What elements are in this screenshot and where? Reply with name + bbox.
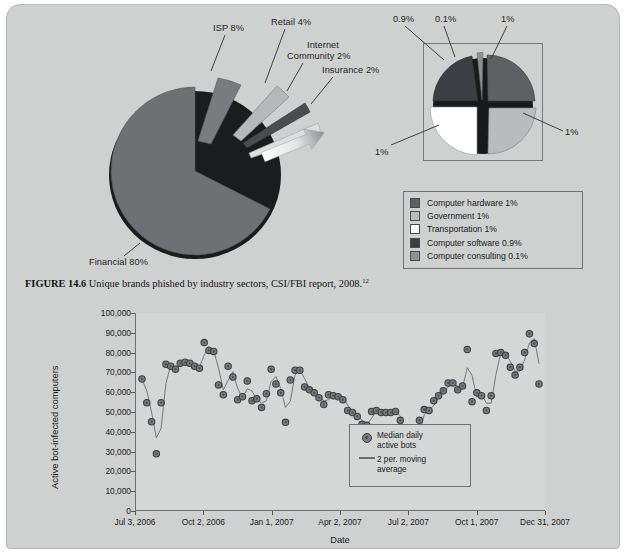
inset-label-hardware: 1% <box>501 14 514 24</box>
x-tick-mark <box>272 511 273 515</box>
y-tick-label: 80,000 <box>27 348 137 358</box>
y-axis-title: Active bot-infected computers <box>49 366 60 490</box>
data-point <box>148 419 154 425</box>
inset-pie-box <box>423 43 543 161</box>
data-point <box>263 391 269 397</box>
y-tick-label: 40,000 <box>27 427 137 437</box>
y-tick-label: 90,000 <box>27 328 137 338</box>
data-point <box>258 404 264 410</box>
legend-label-line1: Median daily <box>377 431 423 440</box>
data-point <box>254 396 260 402</box>
y-tick-label: 0 <box>27 506 137 516</box>
x-tick-label: Dec 31, 2007 <box>520 517 570 527</box>
legend-swatch-icon <box>410 224 420 234</box>
x-tick-label: Oct 1, 2007 <box>455 517 498 527</box>
data-point <box>220 392 226 398</box>
data-point <box>211 348 217 354</box>
data-point <box>239 394 245 400</box>
scatter-legend-item: 2 per. moving average <box>357 455 463 474</box>
pie-legend-label: Government 1% <box>427 211 489 221</box>
data-point <box>478 393 484 399</box>
data-point <box>392 408 398 414</box>
figure-caption-label: FIGURE 14.6 <box>25 278 86 289</box>
pie-figure: ISP 8% Retail 4% Internet Community 2% I… <box>7 5 621 295</box>
inset-pie-svg <box>424 44 542 160</box>
legend-marker <box>357 431 377 443</box>
data-point <box>282 419 288 425</box>
inset-slice-transportation <box>430 107 477 155</box>
x-tick-label: Oct 2, 2006 <box>182 517 225 527</box>
y-tick-label: 100,000 <box>27 308 137 318</box>
y-tick-mark <box>131 432 135 433</box>
pie-label-insurance: Insurance 2% <box>322 65 379 75</box>
data-point <box>507 364 513 370</box>
y-tick-mark <box>131 471 135 472</box>
y-tick-mark <box>131 491 135 492</box>
x-tick-mark <box>408 511 409 515</box>
y-tick-mark <box>131 333 135 334</box>
legend-swatch-icon <box>410 238 420 248</box>
y-tick-mark <box>131 353 135 354</box>
main-pie-svg <box>107 43 347 268</box>
data-point <box>244 378 250 384</box>
pie-label-internet-community-2: Community 2% <box>287 51 351 61</box>
data-point <box>273 381 279 387</box>
pie-label-retail: Retail 4% <box>271 17 311 27</box>
y-tick-mark <box>131 313 135 314</box>
pie-label-financial: Financial 80% <box>89 257 148 267</box>
inset-label-government: 1% <box>565 127 578 137</box>
data-point <box>268 366 274 372</box>
x-tick-label: Jan 1, 2007 <box>250 517 294 527</box>
data-point <box>201 339 207 345</box>
x-tick-label: Apr 2, 2007 <box>318 517 361 527</box>
y-tick-label: 70,000 <box>27 367 137 377</box>
data-point <box>225 363 231 369</box>
data-point <box>512 372 518 378</box>
pie-legend: Computer hardware 1% Government 1% Trans… <box>403 191 583 269</box>
data-point <box>321 401 327 407</box>
data-point <box>139 376 145 382</box>
y-tick-mark <box>131 392 135 393</box>
pie-legend-item: Computer hardware 1% <box>410 196 576 209</box>
x-tick-mark <box>135 511 136 515</box>
y-tick-label: 20,000 <box>27 466 137 476</box>
data-point <box>426 407 432 413</box>
data-point <box>144 399 150 405</box>
scatter-legend-label: Median daily active bots <box>377 431 423 450</box>
y-tick-label: 60,000 <box>27 387 137 397</box>
x-axis-title: Date <box>330 535 349 545</box>
data-point <box>526 330 532 336</box>
data-point <box>340 396 346 402</box>
x-tick-mark <box>203 511 204 515</box>
data-point <box>440 388 446 394</box>
data-point <box>416 417 422 423</box>
x-tick-label: Jul 2, 2007 <box>388 517 429 527</box>
data-point <box>230 374 236 380</box>
data-point <box>297 367 303 373</box>
y-tick-mark <box>131 372 135 373</box>
data-point <box>196 365 202 371</box>
data-point <box>469 398 475 404</box>
x-tick-mark <box>545 511 546 515</box>
data-point <box>502 352 508 358</box>
data-point <box>316 395 322 401</box>
legend-label-line2: active bots <box>377 441 416 450</box>
scatter-legend-label: 2 per. moving average <box>377 455 426 474</box>
y-tick-label: 30,000 <box>27 447 137 457</box>
x-tick-mark <box>477 511 478 515</box>
inset-slice-hardware <box>487 55 535 101</box>
data-point <box>278 390 284 396</box>
data-point <box>488 393 494 399</box>
pie-legend-label: Computer consulting 0.1% <box>427 251 528 261</box>
data-point <box>517 364 523 370</box>
inset-label-software: 0.9% <box>393 14 414 24</box>
pie-legend-item: Computer consulting 0.1% <box>410 250 576 263</box>
y-tick-mark <box>131 452 135 453</box>
y-tick-mark <box>131 412 135 413</box>
y-tick-label: 10,000 <box>27 486 137 496</box>
figure-caption-text: Unique brands phished by industry sector… <box>89 278 362 289</box>
legend-marker <box>357 455 377 458</box>
pie-legend-label: Computer hardware 1% <box>427 198 518 208</box>
pie-legend-label: Computer software 0.9% <box>427 238 522 248</box>
y-tick-label: 50,000 <box>27 407 137 417</box>
